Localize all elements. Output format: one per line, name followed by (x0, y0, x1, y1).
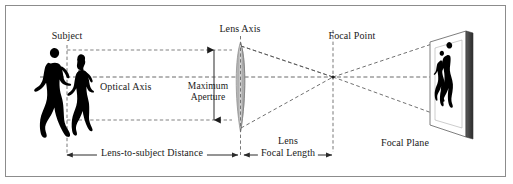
subject-label: Subject (52, 31, 83, 42)
walking-man-silhouette (34, 48, 71, 138)
optical-axis-label: Optical Axis (100, 82, 151, 93)
focal-point-label: Focal Point (329, 31, 376, 42)
diagram-canvas: Subject Optical Axis Lens Axis Maximum A… (0, 0, 513, 184)
focal-point-marker (331, 30, 334, 152)
lens-axis-label: Lens Axis (219, 24, 260, 35)
walking-woman-silhouette (67, 54, 94, 135)
focal-plane-label: Focal Plane (381, 138, 429, 149)
maximum-aperture-label-line2: Aperture (191, 93, 226, 103)
maximum-aperture-label-line1: Maximum (188, 82, 228, 92)
lens-to-subject-distance-label: Lens-to-subject Distance (97, 148, 207, 159)
light-rays (241, 44, 432, 128)
focal-plane-panel (430, 31, 473, 139)
focal-length-label: Focal Length (258, 148, 318, 159)
lens-label: Lens (278, 136, 298, 147)
